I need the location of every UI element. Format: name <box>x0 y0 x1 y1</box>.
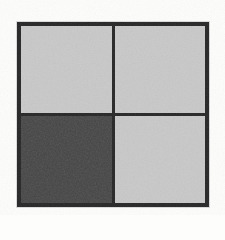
grid-cell-top-left <box>21 26 112 113</box>
grid-cell-bottom-left-label <box>21 116 112 203</box>
grid-cell-bottom-left <box>21 116 112 203</box>
grid-cell-bottom-right <box>115 116 206 203</box>
grid-cell-top-left-label <box>21 26 112 113</box>
quadrant-grid-figure <box>17 22 209 207</box>
grid-cell-bottom-right-label <box>115 116 206 203</box>
grid-cell-top-right <box>115 26 206 113</box>
grid-cell-top-right-label <box>115 26 206 113</box>
